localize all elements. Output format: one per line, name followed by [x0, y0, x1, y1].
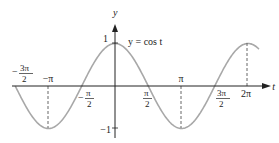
svg-text:3π: 3π [20, 63, 30, 73]
svg-text:π: π [144, 88, 149, 98]
x-tick-label-2pi: 2π [241, 88, 251, 99]
svg-text:2: 2 [145, 99, 150, 109]
x-tick-label-3pi-over-2: 3π 2 [216, 88, 230, 109]
svg-text:π: π [86, 88, 91, 98]
x-tick-label-pi: π [178, 73, 183, 84]
x-tick-label-neg-pi-over-2: − π 2 [78, 88, 94, 109]
y-axis-label: y [112, 7, 118, 18]
cosine-graph: y t 1 −1 y = cos t − 3π 2 −π − π 2 π 2 π… [0, 0, 279, 143]
y-tick-label-neg1: −1 [100, 124, 111, 135]
svg-text:−: − [78, 92, 84, 103]
x-tick-label-neg-pi: −π [43, 73, 54, 84]
y-tick-label-1: 1 [103, 33, 108, 44]
svg-text:2: 2 [219, 99, 224, 109]
function-label: y = cos t [128, 36, 162, 47]
svg-text:2: 2 [22, 74, 27, 84]
svg-text:3π: 3π [217, 88, 227, 98]
x-tick-label-neg-3pi-over-2: − 3π 2 [12, 63, 33, 84]
y-axis-arrow-icon [112, 24, 118, 32]
svg-text:−: − [12, 66, 18, 77]
x-axis-arrow-icon [262, 83, 271, 89]
t-axis-label: t [272, 81, 275, 92]
svg-text:2: 2 [87, 99, 92, 109]
